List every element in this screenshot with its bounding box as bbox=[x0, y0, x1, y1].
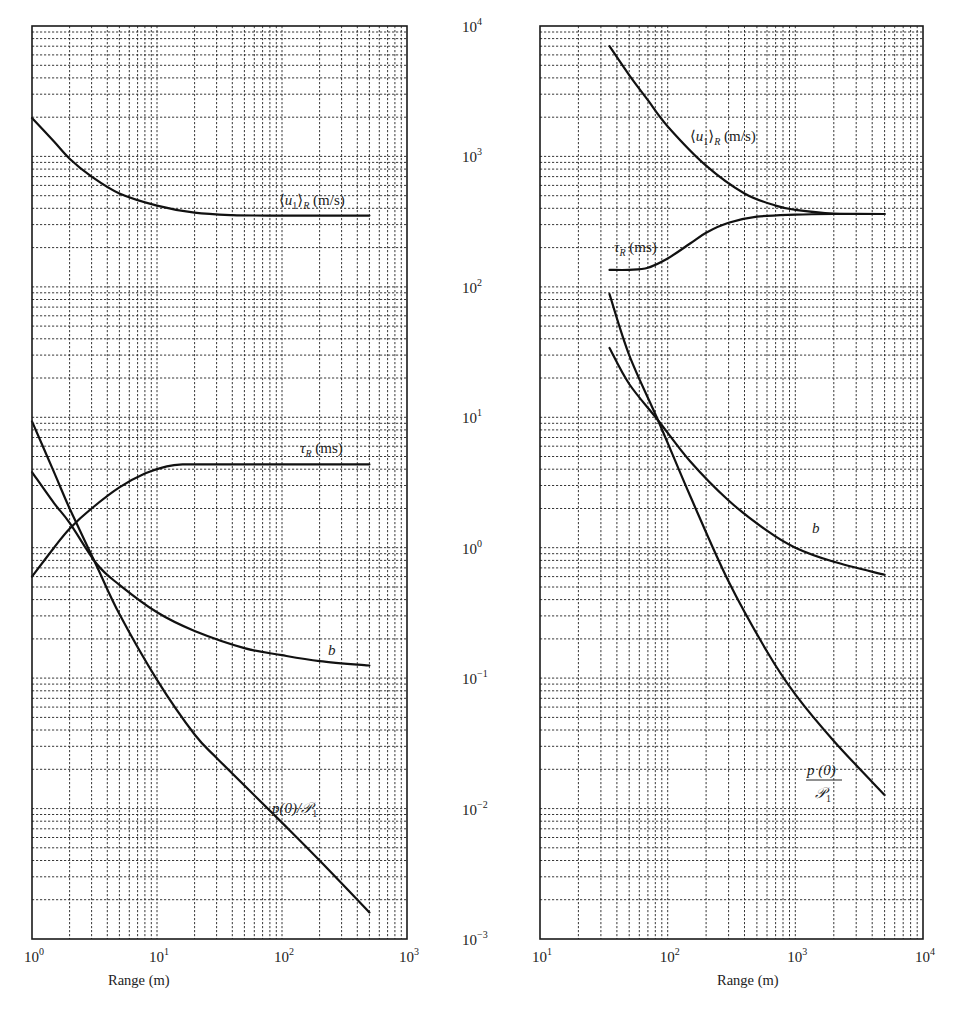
right-label-p0-numerator: p (0) bbox=[806, 762, 836, 779]
x-tick-label: 104 bbox=[915, 946, 935, 965]
left-plot-grid bbox=[32, 26, 407, 939]
x-tick-label: 103 bbox=[787, 946, 807, 965]
x-tick-label: 100 bbox=[24, 946, 44, 965]
y-tick-label: 10−3 bbox=[462, 929, 488, 948]
left-label-p0: p(0)/𝒫1 bbox=[271, 800, 317, 819]
curve-b bbox=[32, 472, 369, 665]
right-label-p0-denominator: 𝒫1 bbox=[815, 785, 831, 804]
x-tick-label: 101 bbox=[532, 946, 552, 965]
right-plot-grid bbox=[540, 26, 923, 939]
left-plot-frame bbox=[32, 26, 407, 939]
left-label-b: b bbox=[328, 642, 336, 658]
right-label-b: b bbox=[812, 520, 820, 536]
curve-p-0-p1 bbox=[610, 294, 885, 795]
curve--r-ms- bbox=[32, 464, 369, 576]
right-label-u1: ⟨u1⟩R (m/s) bbox=[690, 128, 756, 147]
y-tick-label: 100 bbox=[462, 538, 482, 557]
right-plot: 101102103104 Range (m) ⟨u1⟩R (m/s) τR (m… bbox=[532, 26, 935, 989]
right-plot-x-ticks: 101102103104 bbox=[532, 946, 935, 965]
shared-y-axis-ticks: 10410310210110010−110−210−3 bbox=[462, 16, 488, 948]
figure-canvas: 100101102103 Range (m) ⟨u1⟩R (m/s) τR (m… bbox=[0, 0, 958, 1011]
curve-b bbox=[610, 348, 885, 575]
y-tick-label: 10−2 bbox=[462, 799, 488, 818]
right-plot-frame bbox=[540, 26, 923, 939]
left-plot-x-axis-label: Range (m) bbox=[108, 972, 170, 989]
left-plot-x-ticks: 100101102103 bbox=[24, 946, 419, 965]
x-tick-label: 102 bbox=[660, 946, 680, 965]
curve-p-0-p1 bbox=[32, 421, 369, 912]
y-tick-label: 10−1 bbox=[462, 668, 488, 687]
right-label-tau: τR (ms) bbox=[614, 239, 657, 258]
y-tick-label: 102 bbox=[462, 277, 482, 296]
y-tick-label: 104 bbox=[462, 16, 482, 35]
right-plot-x-axis-label: Range (m) bbox=[717, 972, 779, 989]
left-plot-curves bbox=[32, 118, 369, 912]
x-tick-label: 103 bbox=[399, 946, 419, 965]
y-tick-label: 103 bbox=[462, 146, 482, 165]
x-tick-label: 101 bbox=[149, 946, 169, 965]
right-label-p0: p (0) 𝒫1 bbox=[806, 762, 842, 804]
left-plot: 100101102103 Range (m) ⟨u1⟩R (m/s) τR (m… bbox=[24, 26, 419, 989]
right-plot-curves bbox=[610, 46, 885, 795]
x-tick-label: 102 bbox=[274, 946, 294, 965]
y-tick-label: 101 bbox=[462, 407, 482, 426]
